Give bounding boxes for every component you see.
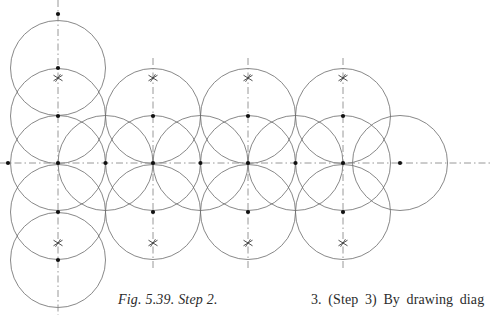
lattice-point — [151, 210, 155, 214]
lattice-point — [56, 161, 60, 165]
lattice-point — [56, 12, 60, 16]
lattice-point — [198, 161, 202, 165]
lattice-point — [6, 161, 10, 165]
cross-stroke — [151, 239, 156, 247]
cross-mark — [149, 239, 158, 247]
lattice-point — [151, 114, 155, 118]
circles-group — [11, 21, 448, 308]
cross-mark — [54, 239, 63, 247]
lattice-point — [56, 210, 60, 214]
figure-page: Fig. 5.39. Step 2. 3. (Step 3) By drawin… — [0, 0, 491, 322]
lattice-point — [398, 161, 402, 165]
cross-mark — [339, 239, 348, 247]
lattice-point — [246, 161, 250, 165]
lattice-point — [151, 161, 155, 165]
lattice-point — [341, 161, 345, 165]
body-paragraph-text: 3. (Step 3) By drawing diag — [311, 292, 484, 308]
lattice-point — [103, 161, 107, 165]
lattice-point — [56, 114, 60, 118]
figure-caption: Fig. 5.39. Step 2. — [118, 292, 218, 308]
lattice-point — [341, 210, 345, 214]
lattice-point — [293, 161, 297, 165]
lattice-point — [56, 66, 60, 70]
cross-stroke — [341, 239, 346, 247]
cross-stroke — [246, 239, 251, 247]
cross-mark — [244, 239, 253, 247]
lattice-point — [246, 210, 250, 214]
lattice-point — [246, 114, 250, 118]
geometric-construction-figure — [0, 0, 491, 322]
lattice-point — [341, 114, 345, 118]
cross-stroke — [56, 239, 61, 247]
lattice-point — [56, 258, 60, 262]
construction-axis-group — [0, 0, 491, 315]
